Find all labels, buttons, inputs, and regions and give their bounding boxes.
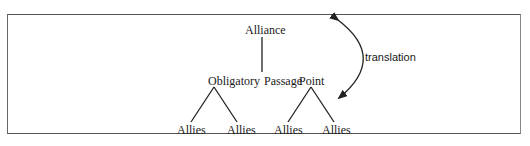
node-allies-4: Allies <box>322 124 351 136</box>
node-opp-passage: Passage <box>264 75 302 87</box>
node-allies-3: Allies <box>274 124 303 136</box>
translation-label: translation <box>365 52 416 63</box>
node-opp-point: Point <box>299 75 324 87</box>
edge-obligatory-allies-1 <box>191 87 214 122</box>
edge-obligatory-allies-2 <box>214 87 237 122</box>
edge-point-allies-4 <box>311 87 334 122</box>
edge-point-allies-3 <box>288 87 311 122</box>
node-allies-2: Allies <box>227 124 256 136</box>
node-alliance: Alliance <box>245 24 286 36</box>
diagram-lines <box>0 0 530 146</box>
translation-arrow <box>338 20 363 98</box>
node-allies-1: Allies <box>177 124 206 136</box>
node-opp-obligatory: Obligatory <box>208 75 260 87</box>
